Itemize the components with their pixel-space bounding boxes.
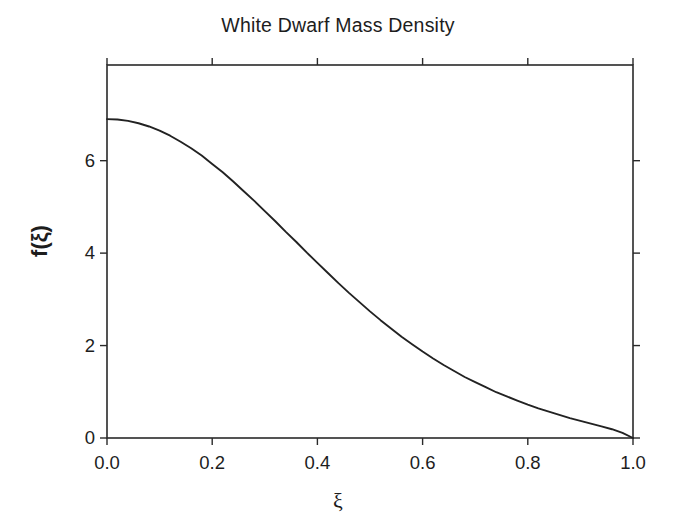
x-tick-label: 0.2 <box>182 452 242 474</box>
chart-title: White Dwarf Mass Density <box>0 14 676 37</box>
figure-canvas: White Dwarf Mass Density 0.00.20.40.60.8… <box>0 0 676 531</box>
axes-frame-rect <box>107 65 633 438</box>
axes-frame <box>107 65 633 438</box>
data-series-group <box>107 119 633 438</box>
x-tick-label: 0.8 <box>498 452 558 474</box>
y-tick-label: 6 <box>55 150 95 172</box>
y-tick-label: 2 <box>55 335 95 357</box>
y-axis-label: f(ξ) <box>27 215 53 267</box>
y-tick-label: 4 <box>55 242 95 264</box>
x-tick-label: 1.0 <box>603 452 663 474</box>
plot-svg <box>47 45 676 505</box>
plot-area: 0.00.20.40.60.81.0 0246 <box>107 65 633 438</box>
data-series-line <box>107 119 633 438</box>
axis-ticks <box>100 58 640 445</box>
x-tick-label: 0.0 <box>77 452 137 474</box>
x-tick-label: 0.6 <box>393 452 453 474</box>
y-tick-label: 0 <box>55 427 95 449</box>
x-tick-label: 0.4 <box>287 452 347 474</box>
x-axis-label: ξ <box>0 488 676 514</box>
